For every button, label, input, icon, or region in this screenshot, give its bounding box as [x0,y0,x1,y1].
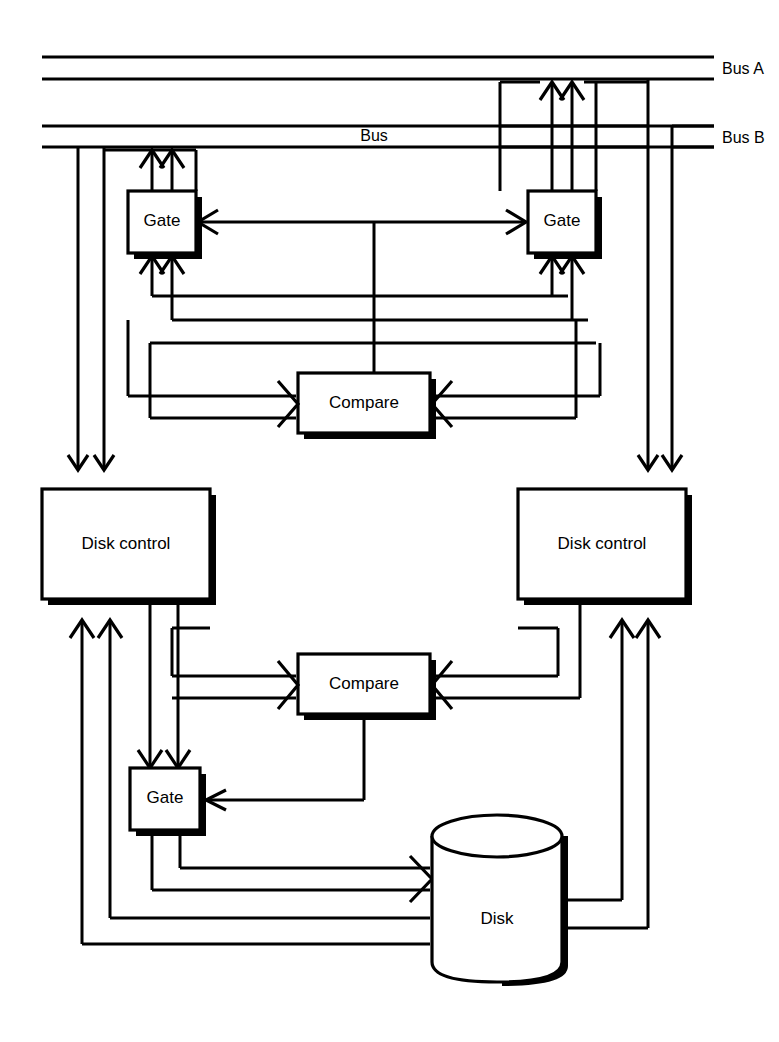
arrowhead-22 [410,856,432,902]
gate-bottom-to-disk [152,830,432,902]
gate-top-right-to-bus [500,82,648,191]
bus-center-label: Bus [360,127,388,144]
gate-top-left-block: Gate [128,191,202,259]
left-bus-taps [78,147,104,468]
compare-top-label: Compare [329,393,399,412]
gate-bottom-block: Gate [130,768,206,836]
arrowhead-19 [278,661,298,709]
diagram-root: Bus A Bus B Bus [0,0,779,1042]
gate-bottom-label: Gate [147,788,184,807]
disk-top-ellipse [432,815,562,857]
gate-top-left-lower-feeds [140,256,588,320]
bus-b-label: Bus B [722,129,765,146]
compare-bottom-left-inputs [172,628,298,709]
right-bus-taps [648,79,714,468]
gate-top-right-lower-feeds [540,256,584,320]
dcl-label: Disk control [82,534,171,553]
gate-top-right-block: Gate [528,191,602,259]
arrow-bus-to-disk-control-right [638,455,682,470]
arrow-bus-to-disk-control-left [68,455,114,470]
bus-a-label: Bus A [722,60,764,77]
dcl-down-wires [138,599,190,768]
compare-bottom-to-gate [206,714,364,810]
dcr-label: Disk control [558,534,647,553]
gate-tl-label: Gate [144,211,181,230]
gate-tr-label: Gate [544,211,581,230]
compare-top-block: Compare [298,373,436,439]
disk-label: Disk [480,909,514,928]
gate-top-left-to-bus [104,150,196,191]
disk-control-left-block: Disk control [42,489,216,605]
block-diagram-svg: Bus A Bus B Bus [0,0,779,1042]
disk-block: Disk [432,815,568,986]
disk-control-right-block: Disk control [518,489,692,605]
gate-to-gate-link [198,210,526,373]
compare-bottom-block: Compare [298,654,436,720]
arrowhead-15 [278,381,298,427]
compare-bottom-right-inputs [432,628,580,709]
compare-bottom-label: Compare [329,674,399,693]
compare-top-right-inputs [432,320,600,427]
